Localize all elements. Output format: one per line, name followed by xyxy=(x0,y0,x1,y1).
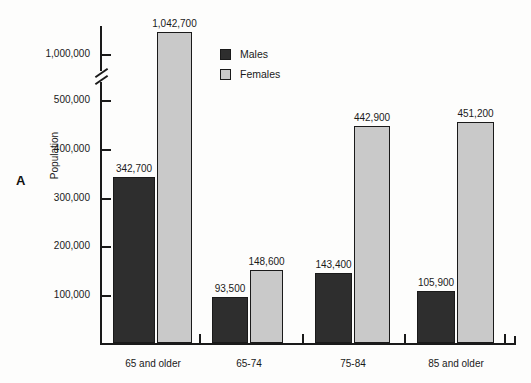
y-axis-tick xyxy=(102,198,111,200)
y-axis-tick xyxy=(102,100,111,102)
bar-75-84-females xyxy=(354,126,390,343)
x-axis-end-cap xyxy=(514,336,516,345)
y-axis-line-lower xyxy=(100,82,102,344)
legend-label: Females xyxy=(240,68,280,80)
x-axis-tick xyxy=(504,334,506,344)
x-axis-category-label: 85 and older xyxy=(428,358,484,369)
legend-swatch-males-icon xyxy=(220,49,231,60)
y-axis-tick-label: 100,000 xyxy=(14,289,90,300)
y-axis-tick-label: 200,000 xyxy=(14,240,90,251)
legend-swatch-females-icon xyxy=(220,69,231,80)
legend: MalesFemales xyxy=(220,44,280,84)
y-axis-tick-label: 500,000 xyxy=(14,94,90,105)
legend-label: Males xyxy=(240,48,268,60)
bar-value-label: 148,600 xyxy=(248,256,284,267)
figure-panel-a: A Population 1,000,000500,000400,000300,… xyxy=(0,0,531,383)
x-axis-category-label: 75-84 xyxy=(340,358,366,369)
y-axis-tick xyxy=(102,149,111,151)
bar-value-label: 93,500 xyxy=(215,283,246,294)
bar-65-and-older-males xyxy=(113,177,155,343)
y-axis-tick xyxy=(102,54,111,56)
bar-value-label: 451,200 xyxy=(457,108,493,119)
y-axis-tick-label: 400,000 xyxy=(14,143,90,154)
y-axis-tick xyxy=(102,295,111,297)
legend-item-females: Females xyxy=(220,64,280,84)
bar-value-label: 1,042,700 xyxy=(152,18,197,29)
bar-value-label: 442,900 xyxy=(354,112,390,123)
x-axis-category-label: 65 and older xyxy=(125,358,181,369)
panel-label: A xyxy=(16,173,26,188)
y-axis-tick-label: 1,000,000 xyxy=(14,48,90,59)
y-axis-tick-label: 300,000 xyxy=(14,192,90,203)
bar-75-84-males xyxy=(315,273,352,343)
bar-value-label: 143,400 xyxy=(315,259,351,270)
bar-65-74-females xyxy=(250,270,283,343)
bar-value-label: 342,700 xyxy=(116,163,152,174)
x-axis-category-label: 65-74 xyxy=(236,358,262,369)
x-axis-tick xyxy=(404,334,406,344)
bar-85-and-older-males xyxy=(417,291,455,343)
bar-85-and-older-females xyxy=(457,122,494,343)
legend-item-males: Males xyxy=(220,44,280,64)
y-axis-line-upper xyxy=(100,26,102,71)
y-axis-tick xyxy=(102,246,111,248)
x-axis-tick xyxy=(199,334,201,344)
x-axis-line xyxy=(100,343,516,345)
x-axis-tick xyxy=(302,334,304,344)
bar-65-and-older-females xyxy=(157,32,192,343)
bar-value-label: 105,900 xyxy=(418,277,454,288)
bar-65-74-males xyxy=(212,297,248,343)
